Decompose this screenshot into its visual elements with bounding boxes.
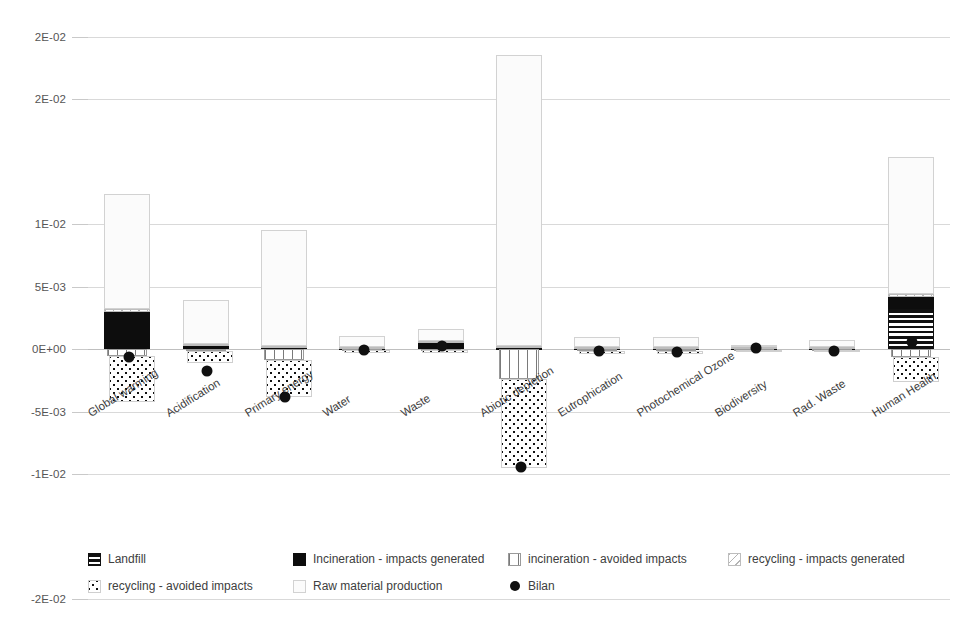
y-axis-tick-label: 2E-02 xyxy=(35,31,66,43)
bar-segment xyxy=(496,55,542,346)
bar-group xyxy=(323,30,401,540)
legend-item[interactable]: Landfill xyxy=(88,552,146,566)
recycling-generated-swatch xyxy=(728,553,741,566)
y-axis-tick-mark xyxy=(72,349,88,350)
plot-area xyxy=(88,30,950,540)
bar-group xyxy=(401,30,479,540)
legend-label: Landfill xyxy=(108,552,146,566)
landfill-swatch xyxy=(88,553,101,566)
chart-legend: LandfillIncineration - impacts generated… xyxy=(88,548,948,602)
y-axis-tick-label: -1E-02 xyxy=(31,468,66,480)
bilan-marker xyxy=(202,365,213,376)
bar-segment xyxy=(104,194,150,309)
y-axis-tick-mark xyxy=(72,224,88,225)
bar-group xyxy=(637,30,715,540)
y-axis-tick-label: 2E-02 xyxy=(35,93,66,105)
y-axis-tick-label: 5E-03 xyxy=(35,281,66,293)
bilan-marker xyxy=(907,336,918,347)
bar-group xyxy=(166,30,244,540)
bar-group xyxy=(793,30,871,540)
bar-segment xyxy=(888,297,934,310)
y-axis-tick-label: -2E-02 xyxy=(31,593,66,605)
bar-segment xyxy=(888,294,934,297)
bar-group xyxy=(245,30,323,540)
bar-segment xyxy=(183,300,229,344)
legend-label: recycling - impacts generated xyxy=(748,552,905,566)
bar-group xyxy=(88,30,166,540)
bar-segment xyxy=(891,349,931,357)
bilan-marker xyxy=(358,345,369,356)
y-axis-tick-label: -5E-03 xyxy=(31,406,66,418)
bar-segment xyxy=(187,351,233,363)
bar-segment xyxy=(264,349,304,360)
legend-item[interactable]: Bilan xyxy=(508,579,555,593)
bar-segment xyxy=(653,337,699,346)
y-axis-tick-mark xyxy=(72,287,88,288)
y-axis-tick-mark xyxy=(72,474,88,475)
legend-row: recycling - avoided impactsRaw material … xyxy=(88,575,948,602)
bilan-marker-swatch xyxy=(510,581,520,591)
bar-group xyxy=(480,30,558,540)
bar-segment xyxy=(418,329,464,340)
incineration-avoided-swatch xyxy=(508,553,521,566)
legend-item[interactable]: Raw material production xyxy=(293,579,442,593)
legend-label: Bilan xyxy=(528,579,555,593)
bilan-marker xyxy=(750,343,761,354)
recycling-avoided-swatch xyxy=(88,580,101,593)
bar-segment xyxy=(261,230,307,346)
legend-item[interactable]: recycling - impacts generated xyxy=(728,552,905,566)
bilan-marker xyxy=(515,461,526,472)
legend-item[interactable]: recycling - avoided impacts xyxy=(88,579,253,593)
bar-segment xyxy=(104,309,150,312)
incineration-generated-swatch xyxy=(293,553,306,566)
bilan-marker xyxy=(123,351,134,362)
legend-row: LandfillIncineration - impacts generated… xyxy=(88,548,948,575)
bar-group xyxy=(558,30,636,540)
bilan-marker xyxy=(672,346,683,357)
bilan-marker xyxy=(593,345,604,356)
y-axis-tick-mark xyxy=(72,599,88,600)
raw-material-swatch xyxy=(293,580,306,593)
legend-label: Incineration - impacts generated xyxy=(313,552,484,566)
bilan-marker xyxy=(280,391,291,402)
bar-segment xyxy=(104,312,150,350)
legend-label: recycling - avoided impacts xyxy=(108,579,253,593)
y-axis-tick-label: 0E+00 xyxy=(32,343,66,355)
legend-item[interactable]: incineration - avoided impacts xyxy=(508,552,687,566)
y-axis-tick-mark xyxy=(72,99,88,100)
y-axis-tick-mark xyxy=(72,412,88,413)
stacked-bar-chart: 3E-022E-022E-021E-025E-030E+00-5E-03-1E-… xyxy=(0,0,973,628)
y-axis-tick-mark xyxy=(72,37,88,38)
bilan-marker xyxy=(829,345,840,356)
bar-segment xyxy=(496,346,542,348)
y-axis-tick-label: 1E-02 xyxy=(35,218,66,230)
legend-item[interactable]: Incineration - impacts generated xyxy=(293,552,484,566)
bar-group xyxy=(872,30,950,540)
legend-label: Raw material production xyxy=(313,579,442,593)
bilan-marker xyxy=(437,341,448,352)
bar-group xyxy=(715,30,793,540)
bar-segment xyxy=(261,346,307,348)
bar-segment xyxy=(888,157,934,295)
bar-segment xyxy=(183,344,229,346)
legend-label: incineration - avoided impacts xyxy=(528,552,687,566)
